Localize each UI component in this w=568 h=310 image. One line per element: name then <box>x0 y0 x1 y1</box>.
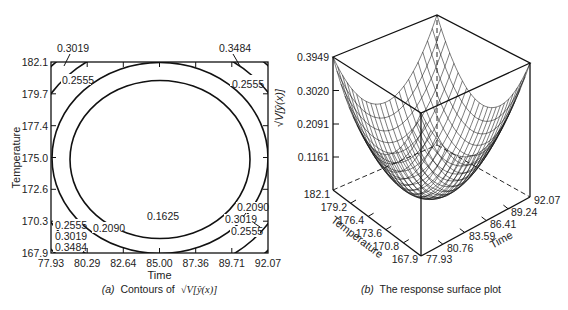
y-tick-labels: 182.1 179.7 177.4 175.0 172.6 170.3 167.… <box>22 56 48 259</box>
x-tick-label: 80.29 <box>74 257 100 269</box>
y-tick-label: 167.9 <box>22 247 48 259</box>
figure-canvas: 77.93 80.29 82.64 85.00 87.36 89.71 92.0… <box>0 0 568 310</box>
temperature-tick-label: 167.9 <box>392 253 418 265</box>
y-tick-label: 172.6 <box>22 183 48 195</box>
contour-label: 0.3484 <box>55 241 87 253</box>
temperature-tick-label: 182.1 <box>304 188 330 200</box>
contour-label: 0.2090 <box>93 222 125 234</box>
time-tick-labels: 77.93 80.76 83.59 86.41 89.24 92.07 <box>426 194 560 265</box>
z-tick-label: 0.2091 <box>297 118 329 130</box>
contour-label: 0.2555 <box>232 78 264 90</box>
contour-label: 0.2555 <box>231 225 263 237</box>
contour-label: 0.1625 <box>147 210 179 222</box>
contour-labels: 0.3019 0.2555 0.3484 0.2555 0.2555 0.301… <box>53 42 269 253</box>
time-tick-label: 86.41 <box>490 218 516 230</box>
contour-label: 0.2090 <box>237 201 269 213</box>
contour-label: 0.3019 <box>57 42 89 54</box>
contour-label: 0.3484 <box>219 42 251 54</box>
x-tick-label: 82.64 <box>110 257 136 269</box>
z-tick-labels: 0.3949 0.3020 0.2091 0.1161 <box>297 51 329 163</box>
x-tick-labels: 77.93 80.29 82.64 85.00 87.36 89.71 92.0… <box>38 257 281 269</box>
z-tick-label: 0.1161 <box>298 151 329 163</box>
time-tick-label: 89.24 <box>511 206 537 218</box>
temperature-tick-labels: 182.1 179.2 176.4 173.6 170.8 167.9 <box>304 188 418 265</box>
time-tick-label: 80.76 <box>447 242 473 254</box>
temperature-tick-label: 179.2 <box>321 201 347 213</box>
y-tick-label: 175.0 <box>22 152 48 164</box>
time-tick-label: 77.93 <box>426 253 452 265</box>
caption-b: (b) The response surface plot <box>361 283 501 295</box>
contour-plot: 77.93 80.29 82.64 85.00 87.36 89.71 92.0… <box>0 10 327 306</box>
z-tick-label: 0.3949 <box>297 51 329 63</box>
contour-label: 0.2555 <box>62 74 94 86</box>
y-tick-label: 182.1 <box>22 56 48 68</box>
x-tick-label: 85.00 <box>146 257 172 269</box>
caption-a: (a) Contours of √V[ŷ(x)] <box>102 283 218 296</box>
y-tick-label: 179.7 <box>22 88 48 100</box>
surface-plot: 0.3949 0.3020 0.2091 0.1161 √V[ŷ(x)] 182… <box>273 15 560 295</box>
y-tick-label: 177.4 <box>22 120 48 132</box>
x-tick-label: 87.36 <box>183 257 209 269</box>
contour-label: 0.3019 <box>225 213 257 225</box>
surface-mesh <box>333 15 530 200</box>
y-tick-label: 170.3 <box>22 215 48 227</box>
x-tick-label: 92.07 <box>255 257 281 269</box>
time-tick-label: 92.07 <box>534 194 560 206</box>
x-tick-label: 89.71 <box>219 257 245 269</box>
z-tick-label: 0.3020 <box>297 85 329 97</box>
z-axis-label: √V[ŷ(x)] <box>273 88 285 127</box>
x-axis-label: Time <box>147 269 171 281</box>
z-tick-marks <box>333 91 339 158</box>
y-axis-label: Temperature <box>10 127 22 189</box>
